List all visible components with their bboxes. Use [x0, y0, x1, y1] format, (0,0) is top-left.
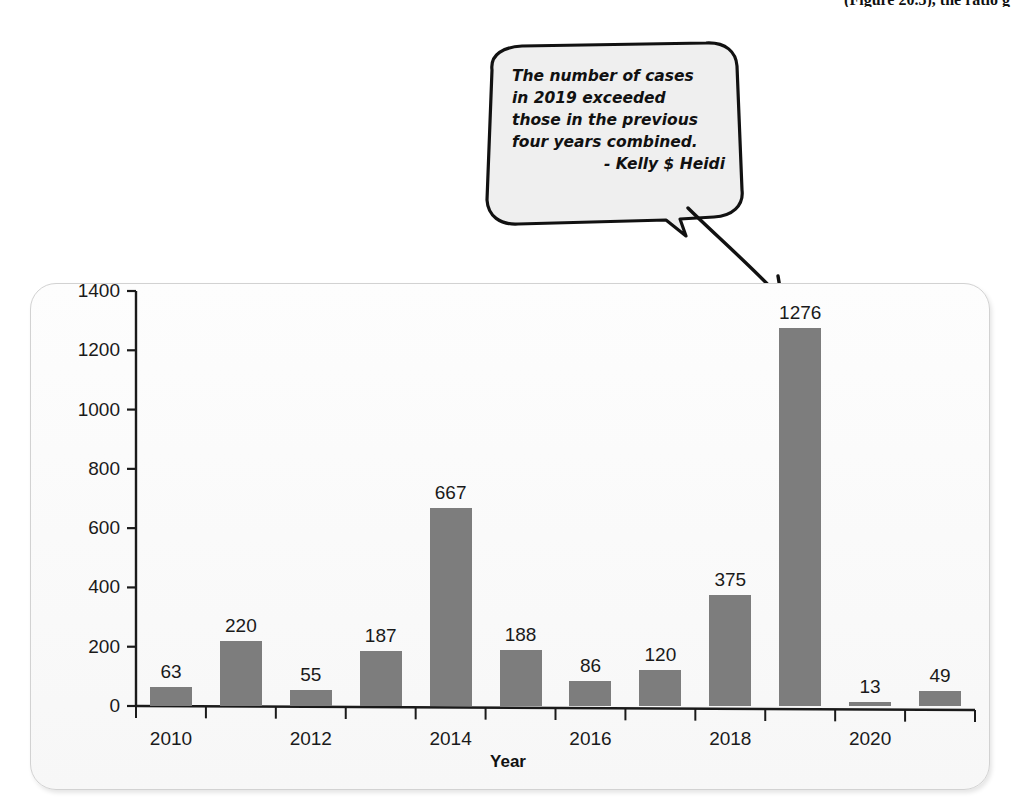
bar-value-label: 187	[341, 625, 421, 647]
bar	[709, 595, 751, 706]
bar-value-label: 188	[481, 624, 561, 646]
bar	[430, 508, 472, 706]
bar-value-label: 1276	[760, 302, 840, 324]
x-tick-label: 2012	[271, 728, 351, 750]
callout-line-1: The number of cases	[512, 67, 694, 85]
bar	[919, 691, 961, 706]
x-tick-label: 2014	[411, 728, 491, 750]
chart-card	[30, 283, 990, 790]
bar	[569, 681, 611, 706]
bar-value-label: 86	[550, 655, 630, 677]
bar-value-label: 220	[201, 615, 281, 637]
y-tick-label: 200	[60, 636, 120, 658]
y-tick-label: 1000	[60, 399, 120, 421]
bar	[500, 650, 542, 706]
y-tick-label: 1200	[60, 339, 120, 361]
bar	[360, 651, 402, 706]
bar-value-label: 49	[900, 665, 980, 687]
x-tick-label: 2020	[830, 728, 910, 750]
bar	[220, 641, 262, 706]
x-tick-label: 2016	[550, 728, 630, 750]
bar-value-label: 55	[271, 664, 351, 686]
page-body-text-fragment: (Figure 20.5), the ratio g	[0, 0, 1016, 7]
bar	[779, 328, 821, 706]
callout-line-4: four years combined.	[512, 133, 698, 151]
y-tick-label: 800	[60, 458, 120, 480]
callout-line-3: those in the previous	[512, 111, 698, 129]
y-tick-label: 600	[60, 517, 120, 539]
bar-value-label: 120	[620, 644, 700, 666]
x-tick-label: 2010	[131, 728, 211, 750]
callout-signature: - Kelly $ Heidi	[512, 153, 727, 175]
y-tick-label: 400	[60, 576, 120, 598]
callout-text: The number of cases in 2019 exceeded tho…	[512, 65, 727, 175]
bar	[290, 690, 332, 706]
bar-value-label: 667	[411, 482, 491, 504]
y-tick-label: 0	[60, 695, 120, 717]
bar	[150, 687, 192, 706]
bar-value-label: 63	[131, 661, 211, 683]
x-axis-title: Year	[0, 752, 1016, 772]
bar	[639, 670, 681, 706]
y-tick-label: 1400	[60, 280, 120, 302]
bar-value-label: 375	[690, 569, 770, 591]
bar	[849, 702, 891, 706]
bar-value-label: 13	[830, 676, 910, 698]
callout-line-2: in 2019 exceeded	[512, 89, 666, 107]
x-tick-label: 2018	[690, 728, 770, 750]
